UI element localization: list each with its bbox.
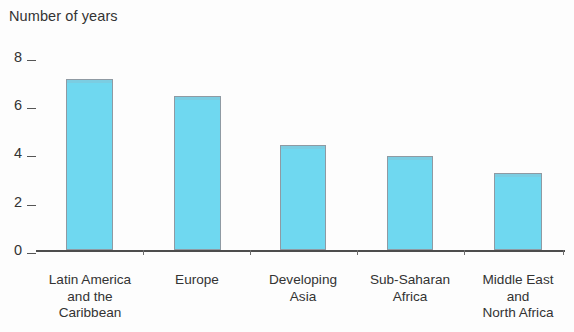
y-axis-tick-label-0: 0 (0, 243, 22, 258)
x-axis-label-developing-asia: Developing Asia (250, 272, 356, 305)
y-axis-tick-label-4: 4 (0, 146, 22, 161)
bar-chart-figure: Number of years 8 6 4 2 0 (0, 0, 574, 332)
x-axis-label-latin-america-and-the-caribbean: Latin America and the Caribbean (32, 272, 148, 322)
y-axis-tick-label-8: 8 (0, 50, 22, 65)
bar-sub-saharan-africa (387, 156, 433, 250)
plot-area: 8 6 4 2 0 Latin America and the C (0, 0, 574, 332)
bar-latin-america-and-the-caribbean (66, 79, 113, 250)
y-axis-tick-label-6: 6 (0, 98, 22, 113)
y-axis-tick-8: 8 (0, 48, 52, 66)
x-axis-label-europe: Europe (145, 272, 249, 289)
x-axis-label-middle-east-and-north-africa: Middle East and North Africa (462, 272, 574, 322)
x-axis-tick (563, 250, 564, 255)
y-axis-tick-dash (27, 205, 36, 206)
x-axis-tick (143, 250, 144, 255)
x-axis-tick (357, 250, 358, 255)
x-axis-tick (464, 250, 465, 255)
bar-middle-east-and-north-africa (494, 173, 542, 250)
bar-developing-asia (280, 145, 326, 250)
y-axis-tick-dash (27, 253, 36, 254)
y-axis-tick-6: 6 (0, 96, 52, 114)
y-axis-tick-dash (27, 156, 36, 157)
y-axis-tick-4: 4 (0, 144, 52, 162)
x-axis-baseline (36, 250, 565, 252)
y-axis-tick-dash (27, 60, 36, 61)
y-axis-tick-label-2: 2 (0, 195, 22, 210)
bar-europe (174, 96, 221, 250)
y-axis-tick-2: 2 (0, 193, 52, 211)
y-axis-tick-dash (27, 108, 36, 109)
x-axis-label-sub-saharan-africa: Sub-Saharan Africa (353, 272, 467, 305)
x-axis-tick (250, 250, 251, 255)
